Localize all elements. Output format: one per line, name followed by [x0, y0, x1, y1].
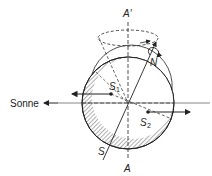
s1-label: S: [109, 81, 116, 92]
s1-subscript: 1: [116, 86, 120, 93]
sun-label: Sonne: [10, 98, 39, 109]
axis-top-label: A′: [122, 8, 133, 19]
axis-bottom-label: A: [123, 163, 131, 174]
south-label: S: [98, 146, 105, 157]
s2-subscript: 2: [147, 122, 151, 129]
precession-diagram: Sonne A′ A N S S 1 S 2: [0, 0, 212, 176]
north-label: N: [150, 57, 158, 68]
s2-label: S: [140, 117, 147, 128]
